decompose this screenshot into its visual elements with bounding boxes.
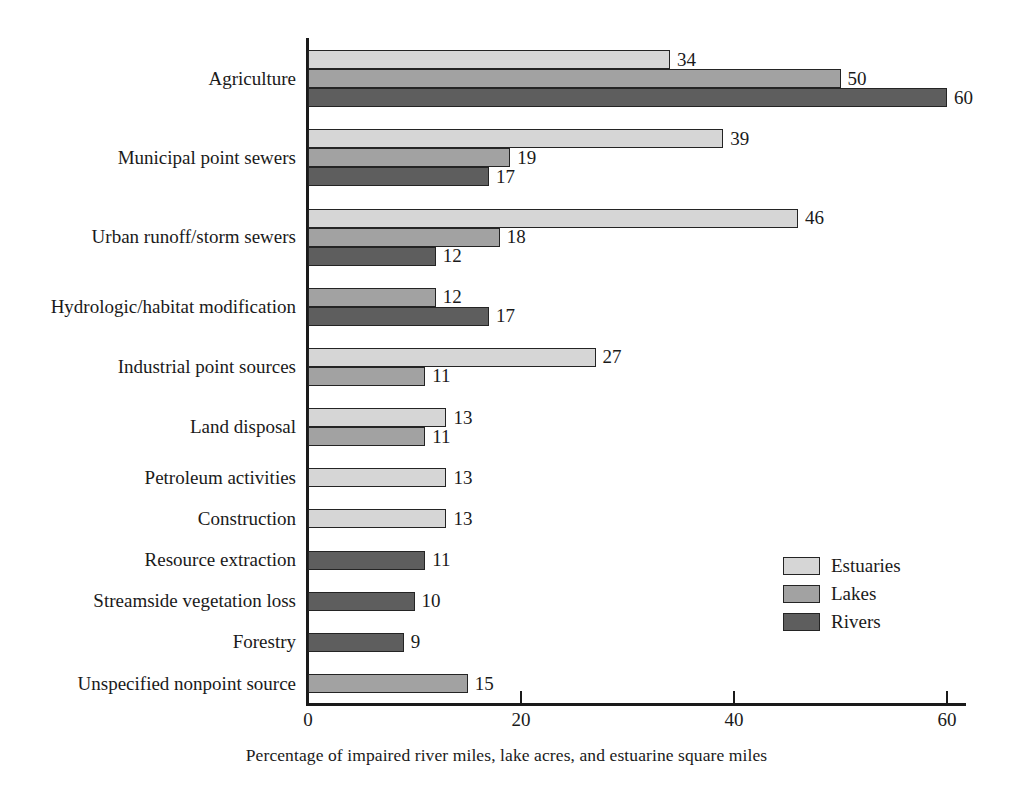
category-label: Land disposal	[190, 416, 296, 438]
x-tick-label-60: 60	[917, 709, 977, 731]
bar-estuaries	[308, 50, 670, 69]
bar-lakes	[308, 427, 425, 446]
bar-lakes	[308, 148, 510, 167]
category-label: Industrial point sources	[118, 356, 296, 378]
category-label: Forestry	[233, 631, 296, 653]
category-label: Streamside vegetation loss	[93, 590, 296, 612]
legend-item-lakes: Lakes	[783, 580, 901, 608]
bar-chart: 0204060 AgricultureMunicipal point sewer…	[0, 0, 1013, 807]
category-label: Hydrologic/habitat modification	[51, 296, 296, 318]
category-label: Resource extraction	[145, 549, 296, 571]
x-tick-label-20: 20	[491, 709, 551, 731]
bar-estuaries	[308, 209, 798, 228]
legend-label-estuaries: Estuaries	[831, 555, 901, 577]
bar-value-label: 10	[422, 591, 441, 610]
bar-value-label: 60	[954, 88, 973, 107]
bar-lakes	[308, 674, 468, 693]
bar-rivers	[308, 592, 415, 611]
legend-item-rivers: Rivers	[783, 608, 901, 636]
bar-value-label: 13	[453, 509, 472, 528]
bar-value-label: 11	[432, 550, 450, 569]
bar-rivers	[308, 247, 436, 266]
legend-label-lakes: Lakes	[831, 583, 876, 605]
bar-value-label: 18	[507, 227, 526, 246]
bar-value-label: 12	[443, 246, 462, 265]
category-label: Petroleum activities	[145, 467, 296, 489]
bar-rivers	[308, 88, 947, 107]
bar-estuaries	[308, 509, 446, 528]
bar-value-label: 27	[603, 347, 622, 366]
bar-value-label: 17	[496, 306, 515, 325]
bar-value-label: 39	[730, 129, 749, 148]
bar-lakes	[308, 367, 425, 386]
legend-swatch-estuaries-icon	[783, 557, 820, 575]
bar-value-label: 12	[443, 287, 462, 306]
x-axis-line	[306, 703, 966, 706]
category-label: Agriculture	[208, 68, 296, 90]
x-tick-label-0: 0	[278, 709, 338, 731]
bar-estuaries	[308, 348, 596, 367]
category-label: Urban runoff/storm sewers	[92, 226, 296, 248]
bar-rivers	[308, 167, 489, 186]
bar-value-label: 11	[432, 427, 450, 446]
legend: Estuaries Lakes Rivers	[783, 552, 901, 636]
x-axis-title: Percentage of impaired river miles, lake…	[0, 745, 1013, 766]
legend-label-rivers: Rivers	[831, 611, 881, 633]
bar-value-label: 46	[805, 208, 824, 227]
bar-estuaries	[308, 408, 446, 427]
bar-rivers	[308, 551, 425, 570]
category-label: Construction	[198, 508, 296, 530]
bar-lakes	[308, 228, 500, 247]
bar-estuaries	[308, 468, 446, 487]
legend-swatch-lakes-icon	[783, 585, 820, 603]
bar-value-label: 34	[677, 50, 696, 69]
x-tick-20	[520, 691, 522, 704]
x-tick-60	[946, 691, 948, 704]
bar-value-label: 19	[517, 148, 536, 167]
bar-value-label: 11	[432, 366, 450, 385]
legend-item-estuaries: Estuaries	[783, 552, 901, 580]
bar-value-label: 13	[453, 408, 472, 427]
x-tick-40	[733, 691, 735, 704]
category-label: Municipal point sewers	[118, 147, 296, 169]
bar-rivers	[308, 307, 489, 326]
bar-estuaries	[308, 129, 723, 148]
bar-value-label: 17	[496, 167, 515, 186]
x-tick-label-40: 40	[704, 709, 764, 731]
legend-swatch-rivers-icon	[783, 613, 820, 631]
bar-value-label: 9	[411, 632, 421, 651]
bar-value-label: 50	[848, 69, 867, 88]
category-label: Unspecified nonpoint source	[78, 673, 296, 695]
bar-rivers	[308, 633, 404, 652]
bar-lakes	[308, 69, 841, 88]
bar-value-label: 13	[453, 468, 472, 487]
bar-value-label: 15	[475, 674, 494, 693]
bar-lakes	[308, 288, 436, 307]
